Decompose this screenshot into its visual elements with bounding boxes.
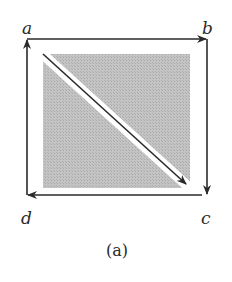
square-diagram: a b c d (a) bbox=[0, 0, 232, 282]
figure-caption: (a) bbox=[106, 241, 128, 260]
vertex-label-d: d bbox=[21, 208, 32, 228]
vertex-label-b: b bbox=[202, 18, 213, 38]
vertex-label-a: a bbox=[22, 18, 32, 38]
vertex-label-c: c bbox=[201, 208, 211, 228]
